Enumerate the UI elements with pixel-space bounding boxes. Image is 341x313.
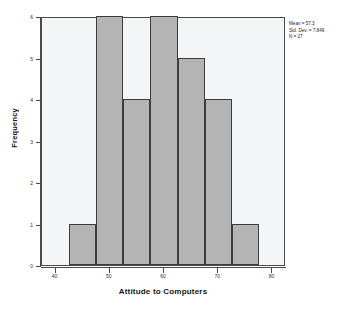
histogram-bar [205, 99, 232, 265]
x-axis-tick-label: 80 [261, 274, 281, 279]
histogram-bar [69, 224, 96, 266]
y-axis-title: Frequency [10, 108, 19, 148]
stat-mean: Mean = 57.3 [289, 21, 324, 28]
bars-layer [42, 18, 284, 265]
y-axis-tick-label: 2 [21, 181, 33, 186]
stat-std-dev: Std. Dev. = 7.849 [289, 28, 324, 35]
histogram-bar [178, 58, 205, 266]
stat-n: N = 27 [289, 34, 324, 41]
histogram-bar [123, 99, 150, 265]
statistics-annotation: Mean = 57.3 Std. Dev. = 7.849 N = 27 [289, 21, 324, 41]
histogram-bar [96, 16, 123, 265]
x-axis-tick-label: 70 [207, 274, 227, 279]
y-axis-tick [36, 183, 41, 184]
x-axis-tick-label: 40 [45, 274, 65, 279]
y-axis-tick [36, 225, 41, 226]
x-axis-tick-label: 50 [99, 274, 119, 279]
x-axis-title: Attitude to Computers [41, 287, 285, 296]
y-axis-tick-label: 5 [21, 57, 33, 62]
x-axis-tick-label: 60 [153, 274, 173, 279]
y-axis-tick [36, 142, 41, 143]
histogram-bar [150, 16, 177, 265]
histogram-chart: 0123456 Frequency 4050607080 Attitude to… [0, 0, 341, 313]
y-axis-tick-label: 0 [21, 264, 33, 269]
y-axis-tick [36, 17, 41, 18]
y-axis-tick-label: 4 [21, 98, 33, 103]
y-axis-tick [36, 100, 41, 101]
histogram-bar [232, 224, 259, 266]
y-axis-tick [36, 59, 41, 60]
y-axis-tick-label: 6 [21, 15, 33, 20]
y-axis-tick-label: 1 [21, 223, 33, 228]
plot-area [41, 17, 285, 266]
y-axis-tick-label: 3 [21, 140, 33, 145]
